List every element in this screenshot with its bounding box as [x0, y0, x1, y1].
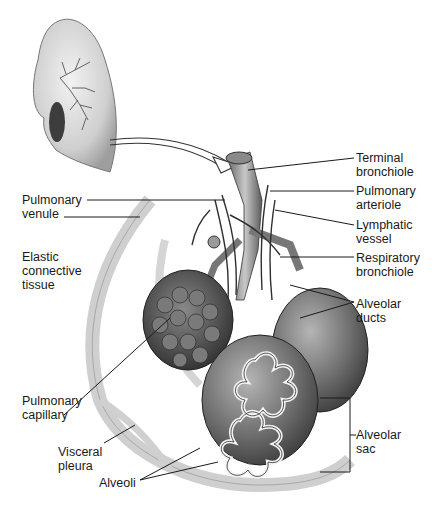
label-lymphatic-vessel: Lymphatic vessel [356, 218, 413, 246]
lung-anatomy-diagram: Terminal bronchiole Pulmonary arteriole … [0, 0, 439, 517]
label-visceral-pleura: Visceral pleura [58, 445, 102, 473]
whole-lung-icon [33, 19, 116, 172]
label-alveolar-ducts: Alveolar ducts [356, 297, 401, 325]
label-elastic-connective-tissue: Elastic connective tissue [22, 250, 82, 292]
magnify-arrow-icon [110, 138, 238, 173]
label-pulmonary-venule: Pulmonary venule [22, 193, 82, 221]
label-alveolar-sac: Alveolar sac [356, 428, 401, 456]
label-pulmonary-arteriole: Pulmonary arteriole [356, 184, 416, 212]
label-alveoli: Alveoli [99, 476, 136, 490]
label-terminal-bronchiole: Terminal bronchiole [356, 151, 414, 179]
label-pulmonary-capillary: Pulmonary capillary [22, 394, 82, 422]
label-respiratory-bronchiole: Respiratory bronchiole [356, 251, 420, 279]
